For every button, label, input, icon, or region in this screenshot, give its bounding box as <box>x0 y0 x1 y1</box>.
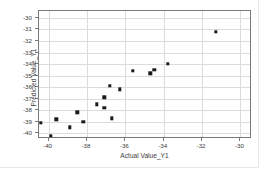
data-point <box>95 103 98 106</box>
gridline-horizontal <box>39 29 250 30</box>
gridline-horizontal <box>39 133 250 134</box>
x-tick-label: -30 <box>227 142 251 149</box>
data-point <box>76 111 79 114</box>
gridline-horizontal <box>39 99 250 100</box>
data-point <box>110 117 113 120</box>
x-tick-label: -38 <box>74 142 98 149</box>
x-tick-label: -34 <box>151 142 175 149</box>
data-point <box>118 88 121 91</box>
x-tick-label: -36 <box>112 142 136 149</box>
y-axis-title: Predicted Value_Y1 <box>30 14 37 142</box>
x-tick-mark <box>48 138 49 141</box>
gridline-horizontal <box>39 64 250 65</box>
x-tick-label: -40 <box>36 142 60 149</box>
gridline-horizontal <box>39 110 250 111</box>
data-point <box>149 72 152 75</box>
scatter-plot-figure: -40-38-36-34-32-30 -30-31-32-33-34-35-36… <box>0 0 259 174</box>
gridline-horizontal <box>39 18 250 19</box>
data-point <box>131 69 134 72</box>
data-point <box>68 126 71 129</box>
x-tick-label: -32 <box>189 142 213 149</box>
gridline-horizontal <box>39 41 250 42</box>
data-point <box>166 62 169 65</box>
x-axis-title: Actual Value_Y1 <box>38 152 251 159</box>
data-point <box>39 121 42 124</box>
x-tick-mark <box>86 138 87 141</box>
data-point <box>55 118 58 121</box>
x-tick-mark <box>163 138 164 141</box>
gridline-horizontal <box>39 53 250 54</box>
data-point <box>152 68 155 71</box>
data-point <box>103 96 106 99</box>
data-point <box>81 120 84 123</box>
data-point <box>108 84 111 87</box>
x-tick-mark <box>201 138 202 141</box>
gridline-horizontal <box>39 76 250 77</box>
gridline-horizontal <box>39 87 250 88</box>
plot-area <box>38 10 251 138</box>
x-tick-mark <box>124 138 125 141</box>
x-tick-mark <box>239 138 240 141</box>
data-point <box>49 134 52 137</box>
gridline-horizontal <box>39 122 250 123</box>
data-point <box>214 30 217 33</box>
data-point <box>103 106 106 109</box>
